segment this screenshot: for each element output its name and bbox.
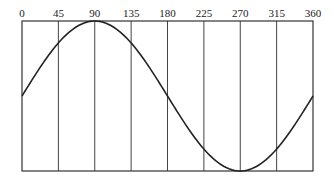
x-tick-label: 45: [53, 7, 65, 19]
x-tick-label: 0: [19, 7, 25, 19]
x-tick-label: 180: [159, 7, 176, 19]
sine-wave-chart: 04590135180225270315360: [0, 0, 334, 183]
x-tick-label: 135: [123, 7, 140, 19]
x-tick-label: 270: [232, 7, 249, 19]
x-axis-tick-labels: 04590135180225270315360: [19, 7, 322, 19]
x-tick-label: 360: [305, 7, 322, 19]
chart-canvas: 04590135180225270315360: [0, 0, 334, 183]
x-tick-label: 315: [268, 7, 285, 19]
x-tick-label: 90: [89, 7, 101, 19]
x-tick-label: 225: [196, 7, 213, 19]
